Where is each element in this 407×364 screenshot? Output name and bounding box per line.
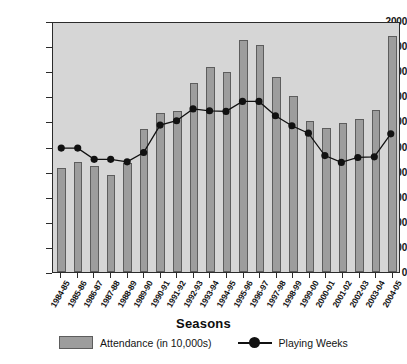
line-marker (371, 153, 378, 160)
x-tick-mark (276, 273, 277, 278)
line-marker (107, 156, 114, 163)
x-tick-mark (259, 273, 260, 278)
line-marker (288, 122, 295, 129)
x-tick-mark (209, 273, 210, 278)
line-marker (338, 159, 345, 166)
plot-area (52, 22, 400, 273)
line-marker (124, 158, 131, 165)
line-marker (91, 156, 98, 163)
line-marker (305, 130, 312, 137)
x-tick-mark (60, 273, 61, 278)
line-marker (189, 105, 196, 112)
x-tick-mark (342, 273, 343, 278)
legend-label-attendance: Attendance (in 10,000s) (100, 337, 212, 349)
x-tick-mark (359, 273, 360, 278)
x-tick-mark (143, 273, 144, 278)
line-series-playing-weeks (53, 23, 399, 272)
line-marker (74, 145, 81, 152)
line-marker (387, 130, 394, 137)
chart-figure: 0200400600800100012001400160018002000 19… (0, 0, 407, 364)
line-marker (354, 154, 361, 161)
line-marker (58, 145, 65, 152)
x-axis-title: Seasons (0, 316, 407, 331)
legend-item-playing-weeks: Playing Weeks (238, 337, 348, 349)
x-tick-mark (309, 273, 310, 278)
x-tick-mark (127, 273, 128, 278)
x-tick-mark (375, 273, 376, 278)
legend-item-attendance: Attendance (in 10,000s) (59, 336, 212, 349)
line-marker (321, 152, 328, 159)
x-tick-mark (193, 273, 194, 278)
x-tick-mark (110, 273, 111, 278)
x-tick-mark (160, 273, 161, 278)
y-tick-mark (46, 273, 52, 274)
plot-inner (53, 23, 399, 272)
line-marker (272, 112, 279, 119)
line-marker (173, 117, 180, 124)
x-tick-mark (176, 273, 177, 278)
x-tick-mark (292, 273, 293, 278)
x-tick-mark (77, 273, 78, 278)
line-marker (206, 107, 213, 114)
bar-swatch-icon (59, 336, 93, 349)
line-marker (239, 98, 246, 105)
chart-legend: Attendance (in 10,000s) Playing Weeks (0, 336, 407, 349)
x-tick-mark (93, 273, 94, 278)
line-marker (140, 149, 147, 156)
line-marker-icon (238, 337, 272, 348)
x-tick-mark (325, 273, 326, 278)
x-tick-mark (392, 273, 393, 278)
legend-label-playing-weeks: Playing Weeks (279, 337, 348, 349)
line-marker (222, 108, 229, 115)
x-tick-mark (243, 273, 244, 278)
x-tick-mark (226, 273, 227, 278)
line-marker (255, 98, 262, 105)
line-marker (157, 122, 164, 129)
